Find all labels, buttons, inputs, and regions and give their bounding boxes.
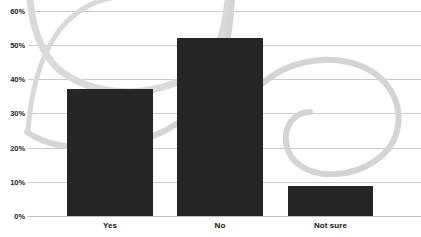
xlabel-no: No xyxy=(177,221,263,230)
bar-no[interactable] xyxy=(177,38,263,216)
bar-not-sure[interactable] xyxy=(288,186,373,216)
bar-series: Yes No Not sure xyxy=(0,0,421,237)
xlabel-not-sure: Not sure xyxy=(288,221,373,230)
bar-yes[interactable] xyxy=(67,89,153,216)
bar-chart: 60% 50% 40% 30% 20% 10% 0% Yes No Not su… xyxy=(0,0,421,237)
xlabel-yes: Yes xyxy=(67,221,153,230)
